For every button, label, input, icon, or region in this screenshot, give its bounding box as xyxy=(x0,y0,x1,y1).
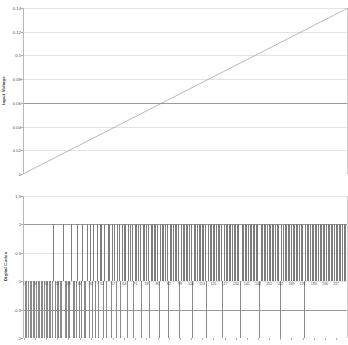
x-axis-tick-label: 8 xyxy=(34,282,36,286)
x-axis-tick-label: 43 xyxy=(89,282,93,286)
x-axis-tick-label: 169 xyxy=(288,282,294,286)
y-axis-tick-label: 0.14 xyxy=(13,6,21,11)
x-axis-tick-mark xyxy=(46,338,47,340)
y-axis-tick-label: 0.08 xyxy=(13,77,21,82)
x-axis-tick-mark xyxy=(258,338,259,340)
x-axis-tick-label: 120 xyxy=(210,282,216,286)
x-axis-tick-label: 85 xyxy=(156,282,160,286)
x-axis-tick-label: 127 xyxy=(222,282,228,286)
input-voltage-axis-title: Input Voltage xyxy=(1,76,6,106)
x-axis-tick-label: 57 xyxy=(111,282,115,286)
x-axis-tick-label: 29 xyxy=(66,282,70,286)
x-axis-tick-mark xyxy=(80,338,81,340)
x-axis-tick-label: 148 xyxy=(255,282,261,286)
x-axis-tick-label: 50 xyxy=(100,282,104,286)
x-axis-tick-mark xyxy=(280,338,281,340)
x-axis-tick-mark xyxy=(35,338,36,340)
y-axis-tick-label: 0.12 xyxy=(13,29,21,34)
x-axis-tick-mark xyxy=(124,338,125,340)
y-axis-tick-label: 0.06 xyxy=(13,100,21,105)
x-axis-tick-label: 197 xyxy=(333,282,339,286)
input-voltage-line-series xyxy=(23,8,348,174)
x-axis-tick-mark xyxy=(91,338,92,340)
y-axis-tick-label: 0.04 xyxy=(13,124,21,129)
x-axis-tick-label: 162 xyxy=(277,282,283,286)
x-axis-tick-mark xyxy=(303,338,304,340)
x-axis-tick-mark xyxy=(291,338,292,340)
x-axis-tick-mark xyxy=(191,338,192,340)
input-voltage-y-axis-line xyxy=(23,8,24,174)
y-axis-tick-label: 0.02 xyxy=(13,148,21,153)
x-axis-tick-mark xyxy=(180,338,181,340)
x-axis-tick-mark xyxy=(202,338,203,340)
x-axis-tick-mark xyxy=(158,338,159,340)
y-axis-tick-mark xyxy=(21,174,23,175)
y-axis-tick-mark xyxy=(21,338,23,339)
x-axis-tick-label: 183 xyxy=(311,282,317,286)
digital-codes-y-axis-line xyxy=(23,196,24,338)
x-axis-tick-label: 106 xyxy=(188,282,194,286)
x-axis-tick-label: 176 xyxy=(300,282,306,286)
x-axis-tick-mark xyxy=(57,338,58,340)
x-axis-tick-label: 1 xyxy=(23,282,25,286)
x-axis-tick-label: 92 xyxy=(167,282,171,286)
y-axis-tick-label: -0.5 xyxy=(14,307,21,312)
x-axis-tick-mark xyxy=(113,338,114,340)
x-axis-tick-mark xyxy=(135,338,136,340)
x-axis-tick-label: 15 xyxy=(44,282,48,286)
x-axis-tick-label: 78 xyxy=(144,282,148,286)
input-voltage-plot-area xyxy=(23,8,348,174)
x-axis-tick-label: 64 xyxy=(122,282,126,286)
x-axis-tick-mark xyxy=(213,338,214,340)
line-path xyxy=(23,8,348,174)
x-axis-tick-label: 190 xyxy=(322,282,328,286)
x-axis-tick-label: 141 xyxy=(244,282,250,286)
x-axis-tick-label: 22 xyxy=(55,282,59,286)
x-axis-tick-mark xyxy=(336,338,337,340)
digital-codes-bar-series xyxy=(23,196,348,338)
x-axis-tick-label: 155 xyxy=(266,282,272,286)
x-axis-tick-mark xyxy=(146,338,147,340)
x-axis-tick-mark xyxy=(325,338,326,340)
digital-codes-chart: Digital Codes 1.510.50-0.5-1 18152229364… xyxy=(0,188,348,345)
x-axis-tick-mark xyxy=(314,338,315,340)
x-axis-tick-mark xyxy=(225,338,226,340)
x-axis-tick-label: 113 xyxy=(199,282,205,286)
x-axis-tick-mark xyxy=(68,338,69,340)
adc-transfer-characteristic-figure: Input Voltage 0.140.120.10.080.060.040.0… xyxy=(0,0,348,345)
input-voltage-chart: Input Voltage 0.140.120.10.080.060.040.0… xyxy=(0,0,348,182)
x-axis-tick-label: 134 xyxy=(233,282,239,286)
x-axis-tick-mark xyxy=(247,338,248,340)
x-axis-tick-label: 36 xyxy=(78,282,82,286)
digital-codes-axis-title: Digital Codes xyxy=(3,251,8,283)
x-axis-tick-mark xyxy=(24,338,25,340)
x-axis-tick-mark xyxy=(269,338,270,340)
x-axis-tick-label: 99 xyxy=(178,282,182,286)
x-axis-tick-mark xyxy=(236,338,237,340)
x-axis-tick-label: 71 xyxy=(133,282,137,286)
digital-codes-plot-area xyxy=(23,196,348,338)
x-axis-tick-mark xyxy=(169,338,170,340)
x-axis-tick-mark xyxy=(102,338,103,340)
